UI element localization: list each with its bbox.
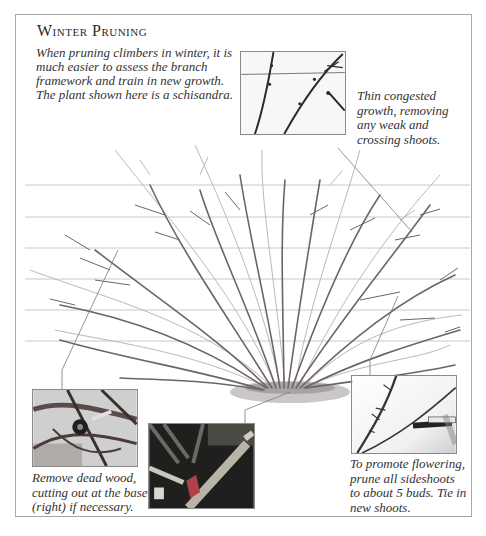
stems-on-wire-image bbox=[241, 52, 345, 134]
photo-sideshoots bbox=[351, 375, 457, 454]
caption-thin-growth: Thin congested growth, removing any weak… bbox=[357, 89, 467, 147]
dark-branches bbox=[60, 175, 460, 390]
secateurs-dead-wood-image bbox=[33, 390, 137, 466]
photo-thin-growth bbox=[240, 51, 346, 135]
light-branches bbox=[30, 145, 462, 388]
photo-base-cut bbox=[148, 423, 255, 509]
caption-dead-wood: Remove dead wood, cutting out at the bas… bbox=[32, 471, 150, 515]
saw-at-base-image bbox=[149, 424, 254, 508]
secateurs-sideshoot-image bbox=[352, 376, 456, 453]
caption-sideshoots: To promote flowering, prune all sideshoo… bbox=[350, 457, 468, 515]
photo-dead-wood bbox=[32, 389, 138, 467]
